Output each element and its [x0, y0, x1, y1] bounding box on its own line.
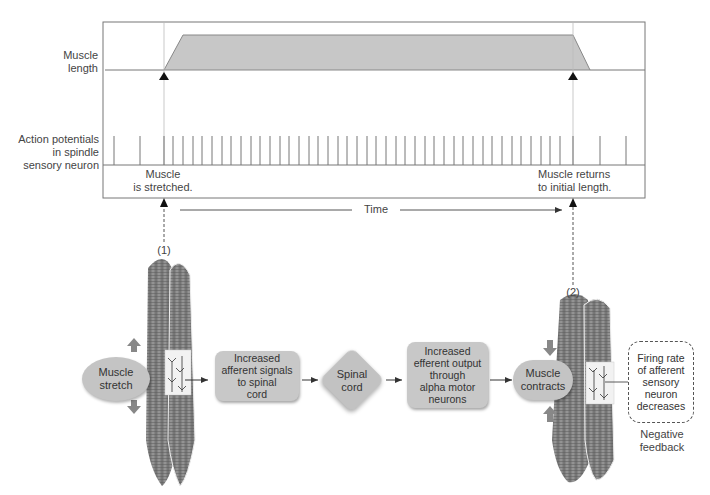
node-text: Spinal [330, 368, 374, 381]
node-text: Firing rate [637, 352, 685, 364]
spinal-cord-node-text: Spinalcord [330, 368, 374, 394]
node-text: afferent signals [221, 364, 292, 376]
node-text: cord [330, 381, 374, 394]
action-potentials-label: Action potentials in spindle sensory neu… [0, 133, 99, 172]
label-line: in spindle [0, 146, 99, 159]
label-line: Action potentials [0, 133, 99, 146]
event-return-label: Muscle returns to initial length. [538, 168, 648, 194]
node-text: Increased [414, 345, 482, 357]
node-text: of afferent [637, 364, 685, 376]
node-text: neurons [414, 393, 482, 405]
up-arrow-icon [160, 198, 168, 207]
time-axis-label: Time [352, 203, 400, 216]
step-1-marker: (1) [150, 244, 178, 257]
efferent-output-node: Increasedefferent outputthroughalpha mot… [407, 342, 488, 408]
node-text: neuron [637, 388, 685, 400]
label-line: sensory neuron [0, 159, 99, 172]
up-arrow-icon [569, 198, 577, 207]
muscle-length-label: Muscle length [20, 49, 98, 75]
negative-feedback-label: Negative feedback [628, 428, 696, 454]
label-line: Negative [628, 428, 696, 441]
node-text: Increased [221, 352, 292, 364]
node-text: efferent output [414, 357, 482, 369]
node-text: Muscle [521, 367, 566, 380]
label-line: Muscle [130, 168, 196, 181]
node-text: through [414, 369, 482, 381]
muscle-contracts-node: Musclecontracts [513, 360, 573, 400]
step-2-marker: (2) [559, 286, 587, 299]
node-text: stretch [99, 379, 134, 392]
node-text: contracts [521, 380, 566, 393]
diagram-graphics [0, 0, 710, 495]
firing-rate-decreases-node: Firing rateof afferentsensoryneurondecre… [628, 341, 694, 423]
muscle-stretch-node: Musclestretch [82, 357, 150, 401]
node-text: alpha motor [414, 381, 482, 393]
label-line: Muscle [20, 49, 98, 62]
node-text: to spinal [221, 376, 292, 388]
label-line: to initial length. [538, 181, 648, 194]
node-text: cord [221, 388, 292, 400]
label-line: Muscle returns [538, 168, 648, 181]
afferent-signals-node: Increasedafferent signalsto spinalcord [215, 351, 299, 401]
label-line: length [20, 62, 98, 75]
muscle-length-trace [105, 35, 645, 70]
node-text: decreases [637, 400, 685, 412]
label-line: feedback [628, 441, 696, 454]
event-stretched-label: Muscle is stretched. [130, 168, 196, 194]
label-line: is stretched. [130, 181, 196, 194]
node-text: sensory [637, 376, 685, 388]
node-text: Muscle [99, 366, 134, 379]
